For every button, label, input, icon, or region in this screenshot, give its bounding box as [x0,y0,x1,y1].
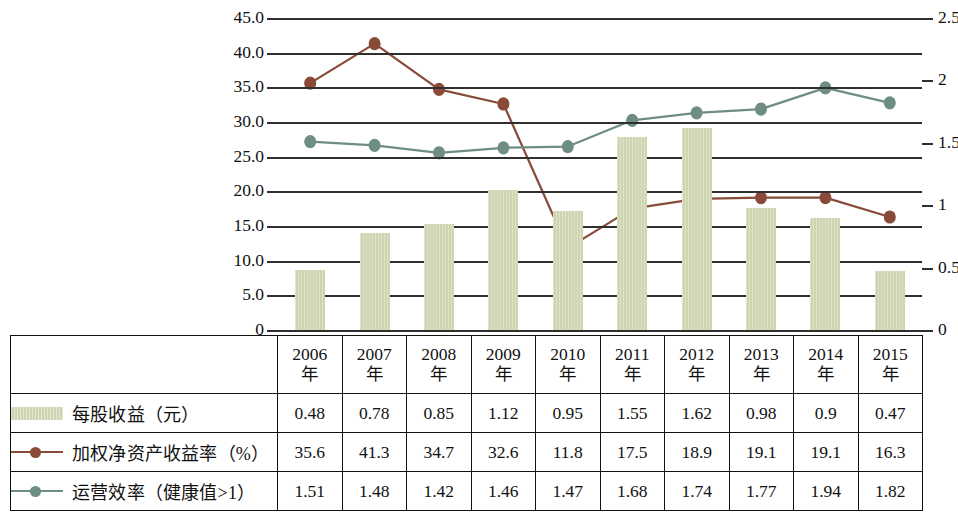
left-axis-tick-label: 20.0 [194,182,264,200]
table-value-cell: 1.94 [794,472,859,511]
table-value-cell: 1.68 [600,472,665,511]
line-path [310,44,890,249]
year-header-cell: 2007年 [342,336,407,394]
year-header-cell: 2011年 [600,336,665,394]
table-value-cell: 11.8 [536,433,601,472]
bar [553,211,583,330]
gridline [278,122,922,124]
right-axis-tick-mark [922,80,933,82]
right-axis-tick-mark [922,205,933,207]
table-value-cell: 0.47 [858,394,923,433]
table-value-cell: 0.95 [536,394,601,433]
table-row: 加权净资产收益率（%）35.641.334.732.611.817.518.91… [11,433,923,472]
left-axis-tick-mark [267,261,278,263]
table-value-cell: 1.51 [278,472,343,511]
left-axis-tick-label: 10.0 [194,252,264,270]
left-axis-tick-label: 40.0 [194,44,264,62]
data-point-marker [497,97,509,110]
right-axis-tick-label: 0.5 [938,259,958,277]
plot-area [278,18,922,330]
year-header-cell: 2010年 [536,336,601,394]
left-axis-tick-label: 35.0 [194,78,264,96]
legend-label: 加权净资产收益率（%） [72,439,269,465]
chart-area: 05.010.015.020.025.030.035.040.045.0 00.… [0,0,958,335]
left-axis-tick-mark [267,18,278,20]
table-value-cell: 0.85 [407,394,472,433]
bar [682,128,712,330]
right-axis-tick-mark [922,330,933,332]
legend-cell[interactable]: 每股收益（元） [11,394,278,433]
left-axis-tick-mark [267,87,278,89]
right-axis-tick-label: 2.5 [938,9,958,27]
left-axis-tick-label: 15.0 [194,217,264,235]
bar [617,137,647,330]
table-row: 运营效率（健康值>1）1.511.481.421.461.471.681.741… [11,472,923,511]
table-value-cell: 1.12 [471,394,536,433]
year-header-cell: 2009年 [471,336,536,394]
data-point-marker [884,96,896,109]
table-value-cell: 1.42 [407,472,472,511]
legend-line-marker-swatch-icon [11,485,63,498]
data-point-marker [497,141,509,154]
table-corner-spacer [11,336,278,394]
left-axis-tick-label: 30.0 [194,113,264,131]
left-axis-tick-mark [267,122,278,124]
year-header-cell: 2014年 [794,336,859,394]
left-axis-tick-label: 5.0 [194,286,264,304]
table-value-cell: 18.9 [665,433,730,472]
left-axis-tick-mark [267,330,278,332]
year-header-cell: 2015年 [858,336,923,394]
table-value-cell: 35.6 [278,433,343,472]
line-path [310,88,890,153]
bar [488,190,518,330]
table-value-cell: 1.46 [471,472,536,511]
table-value-cell: 0.78 [342,394,407,433]
table-value-cell: 17.5 [600,433,665,472]
data-point-marker [884,210,896,223]
table-value-cell: 32.6 [471,433,536,472]
bar [875,271,905,330]
table-value-cell: 0.48 [278,394,343,433]
left-axis-tick-mark [267,157,278,159]
right-axis-tick-label: 1.5 [938,134,958,152]
gridline [278,330,922,332]
left-axis-tick-mark [267,226,278,228]
left-axis-tick-label: 45.0 [194,9,264,27]
legend-line-marker-swatch-icon [11,446,63,459]
table-value-cell: 19.1 [794,433,859,472]
gridline [278,157,922,159]
legend-label: 运营效率（健康值>1） [72,478,255,504]
left-axis-tick-mark [267,295,278,297]
data-point-marker [755,103,767,116]
data-point-marker [369,37,381,50]
data-point-marker [691,106,703,119]
gridline [278,53,922,55]
table-value-cell: 1.77 [729,472,794,511]
legend-label: 每股收益（元） [72,400,199,426]
right-axis-tick-label: 0 [938,321,958,339]
data-point-marker [369,139,381,152]
data-point-marker [626,114,638,127]
legend-cell[interactable]: 加权净资产收益率（%） [11,433,278,472]
legend-cell[interactable]: 运营效率（健康值>1） [11,472,278,511]
table-value-cell: 1.47 [536,472,601,511]
year-header-cell: 2008年 [407,336,472,394]
left-axis-tick-mark [267,191,278,193]
year-header-cell: 2012年 [665,336,730,394]
data-table: 2006年2007年2008年2009年2010年2011年2012年2013年… [10,335,922,511]
right-axis-tick-mark [922,268,933,270]
table-value-cell: 1.48 [342,472,407,511]
bar [295,270,325,330]
table-value-cell: 0.98 [729,394,794,433]
year-header-cell: 2006年 [278,336,343,394]
table-value-cell: 16.3 [858,433,923,472]
chart-page: 05.010.015.020.025.030.035.040.045.0 00.… [0,0,958,515]
table-value-cell: 1.62 [665,394,730,433]
right-axis-tick-mark [922,18,933,20]
table-value-cell: 1.74 [665,472,730,511]
right-axis-tick-label: 2 [938,71,958,89]
gridline [278,18,922,20]
table-value-cell: 34.7 [407,433,472,472]
table-value-cell: 41.3 [342,433,407,472]
table-value-cell: 0.9 [794,394,859,433]
